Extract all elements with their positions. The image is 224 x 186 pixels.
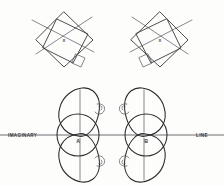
top-left-lattice-group: X [32, 12, 94, 67]
imaginary-label: IMAGINARY [8, 133, 37, 138]
body-b-upper-lobe [125, 88, 166, 136]
diagram-svg: X X IMAGINARY LINE [0, 0, 224, 186]
top-right-center-label: X [159, 38, 162, 43]
top-right-lattice-group: X [130, 12, 192, 67]
figure-canvas: X X IMAGINARY LINE [0, 0, 224, 186]
line-label: LINE [196, 133, 208, 138]
body-a-upper-lobe [59, 88, 100, 136]
body-a-label: A [76, 138, 80, 144]
body-b-label: B [144, 138, 148, 144]
top-left-center-label: X [63, 38, 66, 43]
